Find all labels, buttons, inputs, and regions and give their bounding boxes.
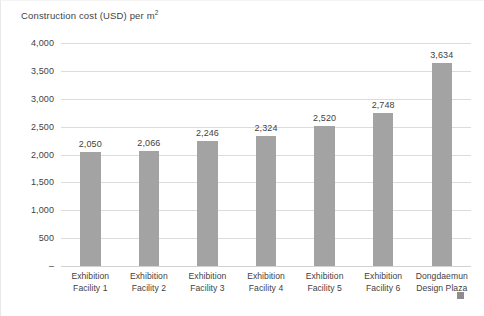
x-axis-category-label: ExhibitionFacility 2 — [120, 271, 179, 294]
y-axis-tick-label: 2,500 — [31, 122, 54, 132]
bar[interactable] — [80, 152, 101, 266]
bar-slot[interactable]: 2,324 — [237, 43, 296, 266]
category-label-line1: Exhibition — [364, 271, 402, 281]
bar-slot[interactable]: 2,748 — [354, 43, 413, 266]
bar-slot[interactable]: 2,050 — [61, 43, 120, 266]
x-axis-baseline — [61, 266, 471, 267]
x-axis-category-label: ExhibitionFacility 6 — [354, 271, 413, 294]
chart-title-text: Construction cost (USD) per m — [21, 10, 155, 21]
bar-slot[interactable]: 2,066 — [120, 43, 179, 266]
y-axis-tick-label: 2,000 — [31, 150, 54, 160]
y-axis-tick-label: 1,000 — [31, 205, 54, 215]
category-label-line1: Exhibition — [130, 271, 168, 281]
category-label-line1: Exhibition — [71, 271, 109, 281]
category-label-line2: Facility 3 — [178, 283, 237, 295]
x-axis-category-label: ExhibitionFacility 5 — [295, 271, 354, 294]
bar-chart: Construction cost (USD) per m2 4,0003,50… — [0, 0, 484, 316]
x-axis-category-label: ExhibitionFacility 1 — [61, 271, 120, 294]
bar-slot[interactable]: 2,246 — [178, 43, 237, 266]
bar-slot[interactable]: 2,520 — [295, 43, 354, 266]
category-label-line2: Facility 5 — [295, 283, 354, 295]
category-label-line2: Facility 6 — [354, 283, 413, 295]
bar-value-label: 3,634 — [430, 50, 453, 60]
bar-value-label: 2,520 — [313, 113, 336, 123]
bar[interactable] — [139, 151, 160, 266]
bar-value-label: 2,066 — [137, 138, 160, 148]
y-axis-tick-label: 1,500 — [31, 177, 54, 187]
category-label-line1: Exhibition — [306, 271, 344, 281]
bar-value-label: 2,748 — [372, 100, 395, 110]
bar-value-label: 2,050 — [79, 139, 102, 149]
bar-slot[interactable]: 3,634 — [412, 43, 471, 266]
x-axis-category-labels: ExhibitionFacility 1ExhibitionFacility 2… — [61, 271, 471, 294]
bar[interactable] — [197, 141, 218, 266]
category-label-line1: Exhibition — [247, 271, 285, 281]
bar[interactable] — [373, 113, 394, 266]
y-axis-tick-label: 3,500 — [31, 66, 54, 76]
chart-title: Construction cost (USD) per m2 — [21, 10, 158, 21]
corner-marker-icon — [456, 291, 465, 300]
x-axis-category-label: ExhibitionFacility 4 — [237, 271, 296, 294]
plot-area: 4,0003,5003,0002,5002,0001,5001,000500– … — [61, 43, 471, 266]
y-axis-tick-label: 3,000 — [31, 94, 54, 104]
bar[interactable] — [432, 63, 453, 266]
x-axis-category-label: ExhibitionFacility 3 — [178, 271, 237, 294]
bar[interactable] — [314, 126, 335, 266]
y-axis-tick-label: – — [49, 261, 54, 271]
bar-value-label: 2,324 — [255, 123, 278, 133]
bar[interactable] — [256, 136, 277, 266]
category-label-line2: Facility 2 — [120, 283, 179, 295]
bar-value-label: 2,246 — [196, 128, 219, 138]
category-label-line2: Facility 4 — [237, 283, 296, 295]
category-label-line1: Exhibition — [189, 271, 227, 281]
category-label-line1: Dongdaemun — [416, 271, 468, 281]
y-axis-tick-label: 4,000 — [31, 38, 54, 48]
category-label-line2: Facility 1 — [61, 283, 120, 295]
y-axis-tick-label: 500 — [39, 233, 54, 243]
bar-series: 2,0502,0662,2462,3242,5202,7483,634 — [61, 43, 471, 266]
chart-title-superscript: 2 — [155, 9, 159, 16]
